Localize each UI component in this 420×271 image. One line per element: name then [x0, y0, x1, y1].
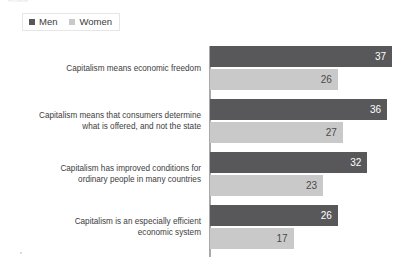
bar-value-label: 26: [321, 75, 332, 85]
bar-value-label: 17: [277, 234, 288, 244]
bar-rect: 36: [210, 99, 387, 120]
top-caption: Anteile: [8, 0, 28, 3]
square-swatch-icon: [29, 19, 35, 25]
bar-group: Capitalism means that consumers determin…: [0, 97, 420, 145]
bar-men: 32: [210, 152, 367, 173]
square-swatch-icon: [69, 19, 75, 25]
category-label-line: economic system: [11, 227, 201, 238]
bar-value-label: 37: [375, 52, 386, 62]
bar-women: 26: [210, 69, 338, 90]
chart-legend: Men Women: [22, 13, 120, 31]
bar-value-label: 27: [326, 128, 337, 138]
bar-men: 26: [210, 205, 338, 226]
bar-rect: 32: [210, 152, 367, 173]
bar-rect: 27: [210, 122, 343, 143]
legend-item-men: Men: [29, 17, 57, 27]
category-label-line: ordinary people in many countries: [11, 174, 201, 185]
bar-men: 36: [210, 99, 387, 120]
bar-value-label: 36: [370, 105, 381, 115]
bar-value-label: 23: [306, 181, 317, 191]
bar-men: 37: [210, 46, 392, 67]
legend-label-women: Women: [79, 17, 112, 27]
bar-value-label: 32: [350, 158, 361, 168]
bar-group: Capitalism means economic freedom3726: [0, 44, 420, 92]
bar-women: 23: [210, 175, 323, 196]
legend-label-men: Men: [39, 17, 57, 27]
legend-item-women: Women: [69, 17, 112, 27]
category-label-line: Capitalism has improved conditions for: [11, 163, 201, 174]
category-label: Capitalism has improved conditions foror…: [11, 163, 201, 185]
bar-group: Capitalism is an especially efficienteco…: [0, 203, 420, 251]
bar-rect: 26: [210, 69, 338, 90]
page-artifact: [20, 252, 22, 254]
category-label-line: Capitalism is an especially efficient: [11, 216, 201, 227]
bar-women: 17: [210, 228, 294, 249]
bar-value-label: 26: [321, 211, 332, 221]
bar-rect: 17: [210, 228, 294, 249]
bar-rect: 26: [210, 205, 338, 226]
bar-chart: Anteile Men Women Capitalism means econo…: [0, 0, 420, 271]
category-label: Capitalism is an especially efficienteco…: [11, 216, 201, 238]
plot-area: Capitalism means economic freedom3726Cap…: [0, 44, 420, 262]
bar-women: 27: [210, 122, 343, 143]
category-label: Capitalism means that consumers determin…: [11, 110, 201, 132]
bar-rect: 23: [210, 175, 323, 196]
category-label-line: what is offered, and not the state: [11, 121, 201, 132]
bar-group: Capitalism has improved conditions foror…: [0, 150, 420, 198]
category-label: Capitalism means economic freedom: [11, 63, 201, 74]
category-label-line: Capitalism means that consumers determin…: [11, 110, 201, 121]
bar-rect: 37: [210, 46, 392, 67]
category-label-line: Capitalism means economic freedom: [11, 63, 201, 74]
